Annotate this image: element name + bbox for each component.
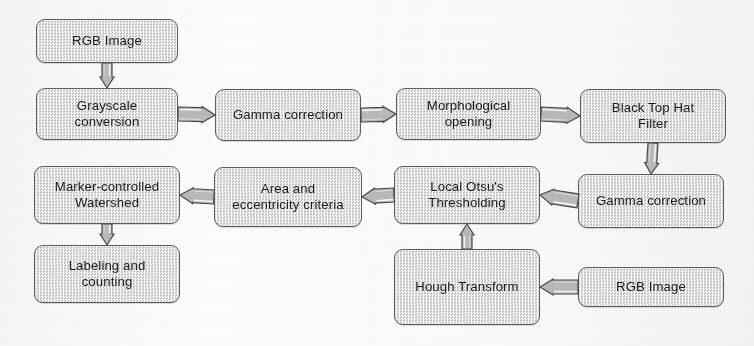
node-gamma_top[interactable]: Gamma correction [215,89,361,141]
diagram-canvas: RGB ImageGrayscaleconversionGamma correc… [0,0,754,346]
arrow-gamma_top-to-morphological [347,101,410,129]
node-label: Labeling andcounting [69,258,146,290]
node-label: RGB Image [72,33,142,49]
node-label: Grayscaleconversion [75,98,140,130]
node-label: Morphologicalopening [427,98,510,130]
arrow-rgb_image_bottom-to-hough_transform [564,273,630,301]
arrow-grayscale-to-gamma_top [164,100,229,128]
arrow-marker_watershed-to-labeling_counting [93,210,142,238]
node-label: Black Top HatFilter [612,100,694,132]
arrow-local_otsu-to-area_eccentricity [380,181,440,209]
node-label-line1: Black Top Hat [612,100,694,116]
node-label-line1: Gamma correction [233,107,343,123]
arrow-area_eccentricity-to-marker_watershed [200,183,262,211]
node-labeling_counting[interactable]: Labeling andcounting [34,245,180,303]
node-label-line2: opening [427,114,510,130]
arrow-rgb_image_top-to-grayscale [93,49,146,77]
node-label-line1: Morphological [427,98,510,114]
node-label-line2: Watershed [55,195,159,211]
node-label: Gamma correction [233,107,343,123]
arrow-hough_transform-to-local_otsu [453,235,506,263]
node-grayscale[interactable]: Grayscaleconversion [36,88,178,140]
node-label-line2: conversion [75,114,140,130]
node-label-line1: Hough Transform [415,279,518,295]
node-label-line1: RGB Image [72,33,142,49]
node-label-line1: Grayscale [75,98,140,114]
node-label: Marker-controlledWatershed [55,179,159,211]
node-morphological[interactable]: Morphologicalopening [396,88,541,140]
arrow-black_top_hat-to-gamma_second [639,129,698,157]
node-label: Hough Transform [415,279,518,295]
node-label-line1: Marker-controlled [55,179,159,195]
node-label-line2: counting [69,274,146,290]
arrow-morphological-to-black_top_hat [527,100,594,128]
node-label-line1: Labeling and [69,258,146,274]
arrow-gamma_second-to-local_otsu [564,187,630,215]
